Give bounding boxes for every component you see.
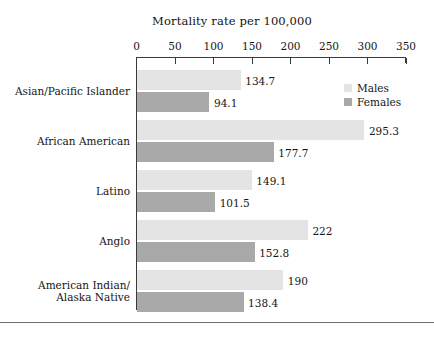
bar-value-label: 295.3 — [369, 125, 399, 137]
bar-value-label: 94.1 — [214, 97, 237, 109]
chart-legend: MalesFemales — [344, 81, 401, 109]
category-label-line: Alaska Native — [38, 291, 130, 304]
bar-females-2 — [137, 192, 215, 212]
bar-females-1 — [137, 142, 274, 162]
bar-females-0 — [137, 92, 209, 112]
x-axis-tick-label: 50 — [168, 40, 181, 52]
bar-value-label: 190 — [288, 275, 308, 287]
legend-item-females: Females — [344, 95, 401, 109]
bar-value-label: 134.7 — [245, 75, 275, 87]
x-axis-tick-label: 100 — [203, 40, 223, 52]
bar-males-2 — [137, 170, 252, 190]
bar-males-3 — [137, 220, 308, 240]
x-axis-tick-label: 0 — [133, 40, 140, 52]
bar-value-label: 149.1 — [256, 175, 286, 187]
chart-title: Mortality rate per 100,000 — [152, 14, 312, 28]
x-axis-tick-label: 200 — [280, 40, 300, 52]
legend-label: Males — [357, 81, 389, 95]
category-label-line: Asian/Pacific Islander — [15, 85, 130, 98]
bar-males-4 — [137, 270, 283, 290]
bar-value-label: 101.5 — [220, 197, 250, 209]
plot-frame-right-stub — [405, 57, 406, 63]
bottom-divider — [0, 322, 434, 323]
category-label-line: Anglo — [99, 235, 130, 248]
mortality-rate-bar-chart: Mortality rate per 100,000 0501001502002… — [0, 0, 434, 337]
category-label-line: Latino — [96, 185, 130, 198]
category-label-text: African American — [37, 135, 130, 148]
bar-value-label: 152.8 — [259, 247, 289, 259]
legend-label: Females — [357, 95, 401, 109]
category-label-text: Latino — [96, 185, 130, 198]
category-label-line: American Indian/ — [38, 279, 130, 292]
x-axis-tick-label: 150 — [242, 40, 262, 52]
category-label-text: Asian/Pacific Islander — [15, 85, 130, 98]
legend-swatch-icon — [344, 98, 352, 106]
bar-males-0 — [137, 70, 241, 90]
x-axis-tick-label: 300 — [357, 40, 377, 52]
x-axis-tick-label: 350 — [396, 40, 416, 52]
bar-value-label: 222 — [312, 225, 332, 237]
legend-swatch-icon — [344, 84, 352, 92]
bar-females-3 — [137, 242, 255, 262]
category-label-line: African American — [37, 135, 130, 148]
x-axis-tick-label: 250 — [319, 40, 339, 52]
bar-males-1 — [137, 120, 364, 140]
bar-value-label: 138.4 — [248, 297, 278, 309]
bar-value-label: 177.7 — [278, 147, 308, 159]
bar-females-4 — [137, 292, 244, 312]
category-label-text: American Indian/Alaska Native — [38, 279, 130, 304]
legend-item-males: Males — [344, 81, 401, 95]
category-label-text: Anglo — [99, 235, 130, 248]
